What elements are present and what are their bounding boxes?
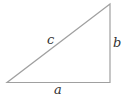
right-triangle-diagram: c b a — [0, 0, 123, 99]
vertical-side-label: b — [113, 35, 121, 50]
hypotenuse-label: c — [47, 32, 55, 47]
horizontal-side-label: a — [54, 82, 62, 97]
triangle-shape — [7, 4, 110, 83]
